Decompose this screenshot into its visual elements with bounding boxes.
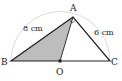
length-ab: 8 cm xyxy=(23,24,43,33)
label-c: C xyxy=(111,57,118,67)
length-ac: 6 cm xyxy=(94,28,114,37)
point-o-dot xyxy=(59,60,62,63)
label-a: A xyxy=(69,3,77,13)
label-b: B xyxy=(1,57,8,67)
label-o: O xyxy=(56,67,63,77)
triangle-diagram: A B C O 8 cm 6 cm xyxy=(0,0,122,81)
